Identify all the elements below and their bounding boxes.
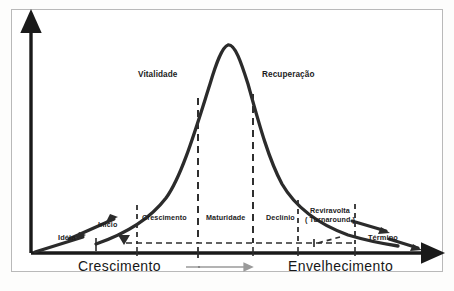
label-termino: Término [368,233,398,242]
label-ideia: Idéia [58,233,75,242]
label-inicio: Início [98,220,117,229]
label-reviravolta: Reviravolta [305,206,355,215]
center-gray-arrow-dot [198,266,200,268]
label-crescimento-stage: Crescimento [142,213,187,222]
diagram-page: Vitalidade Recuperação Idéia Início Cres… [0,0,454,291]
dash-baseline-turnaround-rise [318,237,340,243]
lifecycle-curve-svg [0,0,454,291]
label-turnaround: ( Turnaround ) [305,215,355,224]
axis-label-envelhecimento: Envelhecimento [288,258,393,274]
label-recuperacao: Recuperação [262,70,315,79]
label-reviravolta-group: Reviravolta ( Turnaround ) [305,206,355,224]
label-declinio: Declínio [266,213,295,222]
label-maturidade: Maturidade [206,213,245,222]
label-vitalidade: Vitalidade [138,70,178,79]
axis-label-crescimento: Crescimento [78,258,161,274]
